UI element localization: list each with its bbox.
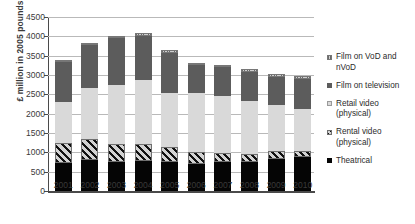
bar-segment[interactable] [188,63,205,65]
y-axis-tick-label: 0 [5,186,45,196]
legend-item-label: Retail video (physical) [336,99,415,120]
bar-segment[interactable] [294,109,311,151]
bar-segment[interactable] [161,53,178,93]
bar-segment[interactable] [214,67,231,96]
bar-segment[interactable] [161,50,178,52]
bar-segment[interactable] [135,33,152,35]
plot-area [48,17,314,191]
x-axis-tick-label: 2010 [286,180,320,190]
retail-swatch-icon [327,101,332,106]
rental-swatch-icon [327,130,332,135]
y-axis-tick-label: 3500 [5,51,45,61]
bar-segment[interactable] [188,152,205,164]
y-axis-tick-label: 2500 [5,89,45,99]
legend-item[interactable]: Film on television [327,81,415,92]
y-axis-tick-label: 500 [5,167,45,177]
bar-segment[interactable] [214,65,231,67]
bar-segment[interactable] [55,102,72,142]
y-axis-tick-label: 3000 [5,70,45,80]
legend-item-label: Film on VoD and nVoD [336,52,415,73]
bar-segment[interactable] [188,65,205,93]
chart-legend: Film on VoD and nVoDFilm on televisionRe… [327,52,415,174]
bar-column[interactable] [55,60,72,191]
bar-segment[interactable] [294,151,311,157]
legend-item[interactable]: Rental video (physical) [327,127,415,148]
legend-item-label: Film on television [336,81,399,92]
bar-segment[interactable] [161,93,178,147]
x-axis-line [48,191,315,193]
bar-segment[interactable] [241,101,258,154]
bar-segment[interactable] [55,60,72,62]
bar-column[interactable] [108,36,125,191]
bar-segment[interactable] [241,154,258,162]
y-axis-tick-label: 2000 [5,109,45,119]
bar-segment[interactable] [81,45,98,88]
bar-segment[interactable] [108,38,125,85]
bar-segment[interactable] [294,76,311,79]
legend-item-label: Theatrical [336,156,372,167]
bar-segment[interactable] [188,93,205,152]
bar-column[interactable] [214,65,231,191]
bar-segment[interactable] [135,144,152,161]
vod-swatch-icon [327,55,332,60]
bar-segment[interactable] [55,62,72,103]
theatrical-swatch-icon [327,158,332,163]
tv-swatch-icon [327,83,332,88]
legend-item[interactable]: Theatrical [327,156,415,167]
bar-segment[interactable] [214,96,231,152]
bar-segment[interactable] [81,43,98,45]
bar-segment[interactable] [214,153,231,163]
bar-segment[interactable] [268,74,285,77]
bar-segment[interactable] [135,80,152,144]
bar-segment[interactable] [161,147,178,162]
bar-segment[interactable] [241,72,258,101]
bar-segment[interactable] [241,69,258,72]
y-axis-tick-label: 4500 [5,12,45,22]
bar-series-layer [48,17,314,191]
bar-segment[interactable] [108,85,125,144]
bar-column[interactable] [188,63,205,191]
bar-segment[interactable] [81,88,98,139]
legend-item[interactable]: Retail video (physical) [327,99,415,120]
bar-column[interactable] [241,69,258,191]
legend-item[interactable]: Film on VoD and nVoD [327,52,415,73]
bar-segment[interactable] [55,143,72,163]
bar-segment[interactable] [268,77,285,105]
bar-segment[interactable] [81,139,98,159]
y-axis-tick-label: 1500 [5,128,45,138]
bar-segment[interactable] [294,79,311,109]
bar-segment[interactable] [268,151,285,158]
legend-item-label: Rental video (physical) [336,127,415,148]
y-axis-tick-label: 1000 [5,147,45,157]
bar-column[interactable] [268,74,285,191]
bar-column[interactable] [294,76,311,191]
bar-segment[interactable] [135,36,152,80]
stacked-bar-chart: £ million in 2005 pounds 050010001500200… [0,0,415,224]
bar-segment[interactable] [108,144,125,162]
bar-column[interactable] [81,44,98,192]
bar-column[interactable] [135,33,152,191]
bar-column[interactable] [161,50,178,191]
y-axis-tick-label: 4000 [5,31,45,41]
bar-segment[interactable] [108,36,125,38]
bar-segment[interactable] [268,105,285,151]
